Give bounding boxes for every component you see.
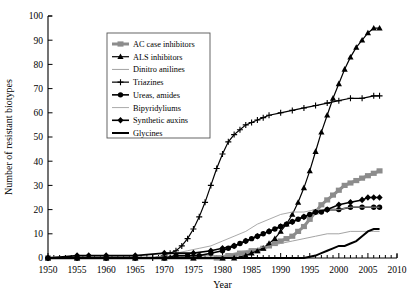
data-marker (324, 197, 330, 202)
series-ureas-amides (45, 204, 382, 260)
y-tick-label-10: 10 (34, 229, 44, 239)
data-marker (324, 100, 330, 106)
series-line (48, 28, 380, 258)
legend-label: ALS inhibitors (133, 53, 183, 62)
data-marker (371, 171, 377, 176)
data-marker (342, 183, 348, 188)
data-marker (336, 98, 342, 104)
data-marker (307, 168, 313, 174)
data-marker (266, 228, 272, 235)
legend-label: Ureas, amides (133, 91, 180, 100)
data-marker (202, 199, 208, 205)
series-als-inhibitors (45, 25, 383, 261)
x-tick-label-1980: 1980 (213, 265, 232, 275)
data-marker (301, 185, 307, 191)
x-tick-label-2000: 2000 (329, 265, 348, 275)
y-tick-label-70: 70 (34, 84, 44, 94)
data-marker (313, 103, 319, 109)
data-marker (365, 173, 371, 178)
legend-label: Glycines (133, 129, 163, 138)
data-marker (289, 234, 295, 239)
data-marker (295, 229, 301, 234)
x-tick-label-1955: 1955 (68, 265, 87, 275)
data-marker (196, 214, 202, 220)
data-marker (301, 105, 307, 111)
data-marker (377, 168, 383, 173)
y-tick-label-30: 30 (34, 181, 44, 191)
data-marker (118, 92, 123, 97)
data-marker (301, 214, 307, 221)
data-marker (347, 54, 353, 60)
x-tick-label-1985: 1985 (242, 265, 261, 275)
legend-label: Synthetic auxins (133, 116, 188, 125)
data-marker (214, 165, 220, 171)
data-marker (307, 217, 313, 222)
data-marker (336, 201, 342, 208)
data-marker (330, 192, 336, 197)
x-tick-label-2005: 2005 (358, 265, 377, 275)
data-marker (347, 180, 353, 185)
data-marker (359, 176, 365, 181)
x-tick-label-1975: 1975 (184, 265, 203, 275)
data-marker (301, 224, 307, 229)
y-tick-label-90: 90 (34, 36, 44, 46)
chart-container: 0102030405060708090100195019551960196519… (0, 0, 414, 301)
data-marker (254, 233, 260, 240)
data-marker (289, 107, 295, 113)
data-marker (371, 194, 377, 201)
y-tick-label-100: 100 (29, 11, 44, 21)
x-tick-label-1960: 1960 (97, 265, 116, 275)
data-marker (353, 178, 359, 183)
y-tick-label-50: 50 (34, 132, 44, 142)
x-tick-label-1965: 1965 (126, 265, 145, 275)
data-marker (249, 119, 255, 125)
data-marker (318, 129, 324, 135)
data-marker (324, 112, 330, 118)
data-marker (342, 66, 348, 72)
series-triazines (45, 93, 383, 261)
data-marker (312, 148, 318, 154)
x-tick-label-1990: 1990 (271, 265, 290, 275)
data-marker (208, 182, 214, 188)
data-marker (231, 243, 237, 250)
plot-axes (48, 16, 397, 258)
data-marker (347, 95, 353, 101)
x-tick-label-2010: 2010 (388, 265, 407, 275)
y-tick-label-0: 0 (38, 253, 43, 263)
legend-label: Dinitro anilines (133, 65, 185, 74)
series-glycines (48, 229, 380, 258)
data-marker (278, 110, 284, 116)
data-marker (376, 194, 382, 201)
data-marker (365, 194, 371, 201)
data-marker (336, 188, 342, 193)
data-marker (330, 95, 336, 101)
y-axis-title: Number of resistant biotypes (3, 79, 14, 195)
data-marker (289, 218, 295, 225)
data-marker (359, 197, 365, 204)
data-marker (243, 238, 249, 245)
data-marker (260, 115, 266, 121)
x-tick-label-1950: 1950 (39, 265, 58, 275)
data-marker (324, 206, 330, 213)
legend-label: Bipyridyliums (133, 104, 181, 113)
data-marker (220, 151, 226, 157)
series-line (48, 229, 380, 258)
series-synthetic-auxins (45, 194, 383, 261)
data-marker (359, 95, 365, 101)
data-marker (347, 199, 353, 206)
series-ac-case-inhibitors (45, 168, 383, 260)
x-tick-label-1970: 1970 (155, 265, 174, 275)
data-marker (371, 93, 377, 99)
y-tick-label-60: 60 (34, 108, 44, 118)
data-marker (266, 112, 272, 118)
legend-label: Triazines (133, 78, 164, 87)
data-marker (295, 199, 301, 205)
x-tick-label-1995: 1995 (300, 265, 319, 275)
data-marker (283, 236, 289, 241)
data-marker (336, 81, 342, 87)
data-marker (318, 202, 324, 207)
y-tick-label-40: 40 (34, 157, 44, 167)
data-marker (190, 226, 196, 232)
y-tick-label-20: 20 (34, 205, 44, 215)
x-axis-title: Year (213, 279, 232, 290)
